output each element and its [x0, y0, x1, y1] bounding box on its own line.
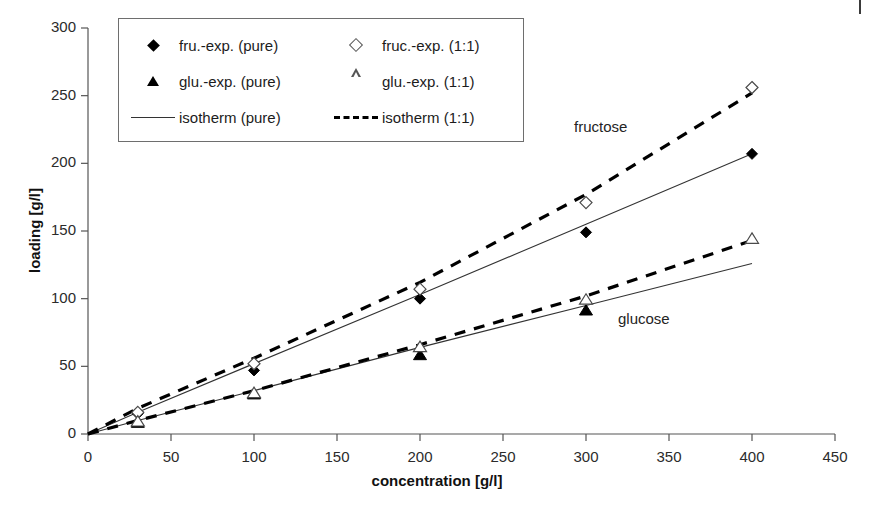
legend-item-label: fruc.-exp. (1:1) [382, 37, 480, 54]
legend-item-label: glu.-exp. (pure) [179, 73, 281, 90]
legend-item: glu.-exp. (pure) [119, 63, 330, 99]
series-line-dashed [88, 240, 752, 434]
x-tick-label: 200 [390, 448, 450, 465]
triangle-filled-icon [147, 76, 159, 86]
annotation-fructose: fructose [574, 118, 627, 135]
dashed-line-icon [334, 116, 378, 119]
marker-triangle-open [746, 233, 759, 243]
marker-diamond-open [746, 82, 758, 94]
x-tick-label: 350 [639, 448, 699, 465]
y-tick-label: 200 [14, 153, 76, 170]
chart-figure: 0501001502002503000501001502002503003504… [0, 0, 874, 510]
legend-item: isotherm (1:1) [330, 99, 523, 135]
y-axis-title: loading [g/l] [26, 151, 43, 311]
legend-key [330, 116, 382, 119]
x-tick-label: 400 [722, 448, 782, 465]
legend-key [127, 117, 179, 118]
chart-legend: fru.-exp. (pure)fruc.-exp. (1:1)glu.-exp… [118, 18, 524, 142]
legend-item-label: isotherm (1:1) [382, 109, 475, 126]
x-tick-label: 300 [556, 448, 616, 465]
y-tick-label: 50 [14, 356, 76, 373]
page-corner-mark [859, 0, 861, 14]
legend-item-label: glu.-exp. (1:1) [382, 73, 475, 90]
legend-row: isotherm (pure)isotherm (1:1) [119, 99, 523, 135]
legend-key [127, 41, 179, 50]
legend-row: fru.-exp. (pure)fruc.-exp. (1:1) [119, 27, 523, 63]
x-axis-title: concentration [g/l] [0, 472, 874, 489]
y-tick-label: 250 [14, 86, 76, 103]
y-tick-label: 150 [14, 221, 76, 238]
legend-item-label: isotherm (pure) [179, 109, 281, 126]
diamond-filled-icon [147, 39, 160, 52]
legend-item: glu.-exp. (1:1) [330, 63, 523, 99]
legend-key [330, 40, 382, 50]
x-tick-label: 250 [473, 448, 533, 465]
marker-diamond-filled [747, 148, 758, 159]
legend-item: fruc.-exp. (1:1) [330, 27, 523, 63]
y-tick-label: 0 [14, 424, 76, 441]
x-tick-label: 50 [141, 448, 201, 465]
solid-line-icon [131, 117, 175, 118]
x-tick-label: 450 [805, 448, 865, 465]
legend-row: glu.-exp. (pure)glu.-exp. (1:1) [119, 63, 523, 99]
y-tick-label: 300 [14, 18, 76, 35]
triangle-open-icon [351, 77, 361, 86]
legend-item: fru.-exp. (pure) [119, 27, 330, 63]
diamond-open-icon [349, 38, 363, 52]
legend-key [127, 76, 179, 86]
x-tick-label: 0 [58, 448, 118, 465]
series-line-dashed [88, 93, 752, 434]
legend-key [330, 77, 382, 86]
annotation-glucose: glucose [618, 310, 670, 327]
marker-diamond-open [248, 358, 260, 370]
marker-diamond-filled [581, 227, 592, 238]
legend-item: isotherm (pure) [119, 99, 330, 135]
data-series [88, 93, 752, 434]
y-tick-label: 100 [14, 289, 76, 306]
x-tick-label: 150 [307, 448, 367, 465]
legend-item-label: fru.-exp. (pure) [179, 37, 278, 54]
x-tick-label: 100 [224, 448, 284, 465]
